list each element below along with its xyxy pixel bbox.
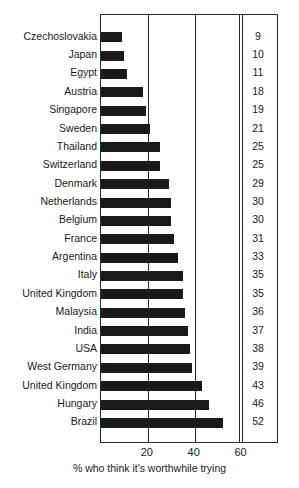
category-label: Hungary (57, 397, 97, 409)
value-label: 39 (238, 360, 278, 372)
bar (101, 289, 183, 299)
value-label: 10 (238, 48, 278, 60)
category-label: Singapore (49, 103, 97, 115)
category-label: Brazil (71, 415, 97, 427)
bar (101, 161, 160, 171)
category-label: Argentina (52, 250, 97, 262)
bar (101, 216, 171, 226)
value-label: 33 (238, 250, 278, 262)
bar (101, 418, 223, 428)
value-label: 18 (238, 85, 278, 97)
category-label: Thailand (57, 140, 97, 152)
x-axis-title: % who think it's worthwhile trying (0, 462, 299, 474)
value-label: 19 (238, 103, 278, 115)
bar (101, 32, 122, 42)
bar (101, 271, 183, 281)
value-label: 46 (238, 397, 278, 409)
value-label: 25 (238, 158, 278, 170)
category-label: Sweden (59, 122, 97, 134)
bar (101, 51, 124, 61)
category-label: Netherlands (40, 195, 97, 207)
x-tick-label: 20 (141, 446, 153, 458)
category-label: Czechoslovakia (23, 30, 97, 42)
value-label: 36 (238, 305, 278, 317)
category-label: France (64, 232, 97, 244)
category-label: United Kingdom (22, 287, 97, 299)
bar (101, 234, 174, 244)
bar (101, 381, 202, 391)
category-label: Belgium (59, 213, 97, 225)
bar (101, 198, 171, 208)
x-tick-label: 40 (188, 446, 200, 458)
value-label: 31 (238, 232, 278, 244)
x-axis-ticks: 204060 (100, 443, 278, 463)
category-label: Denmark (54, 177, 97, 189)
value-label: 35 (238, 268, 278, 280)
category-label: Egypt (70, 66, 97, 78)
value-label: 9 (238, 30, 278, 42)
value-label: 30 (238, 195, 278, 207)
bar (101, 344, 190, 354)
bar (101, 363, 192, 373)
value-label: 38 (238, 342, 278, 354)
bar (101, 87, 143, 97)
bar (101, 106, 146, 116)
bar (101, 124, 150, 134)
bar (101, 308, 185, 318)
category-label: India (74, 324, 97, 336)
bar (101, 400, 209, 410)
bar (101, 69, 127, 79)
value-label: 52 (238, 415, 278, 427)
value-label: 25 (238, 140, 278, 152)
category-label-column: CzechoslovakiaJapanEgyptAustriaSingapore… (0, 14, 100, 443)
category-label: United Kingdom (22, 379, 97, 391)
category-label: Japan (68, 48, 97, 60)
value-column: 9101118192125252930303133353536373839434… (238, 14, 278, 443)
category-label: Switzerland (43, 158, 97, 170)
value-label: 11 (238, 66, 278, 78)
category-label: Austria (64, 85, 97, 97)
x-tick-label: 60 (234, 446, 246, 458)
value-label: 35 (238, 287, 278, 299)
value-label: 37 (238, 324, 278, 336)
category-label: USA (75, 342, 97, 354)
category-label: Malaysia (56, 305, 97, 317)
value-label: 30 (238, 213, 278, 225)
bar (101, 253, 178, 263)
bar (101, 179, 169, 189)
value-label: 21 (238, 122, 278, 134)
chart-page: CzechoslovakiaJapanEgyptAustriaSingapore… (0, 0, 299, 488)
bar (101, 142, 160, 152)
category-label: West Germany (27, 360, 97, 372)
bar (101, 326, 188, 336)
value-label: 43 (238, 379, 278, 391)
value-label: 29 (238, 177, 278, 189)
category-label: Italy (78, 268, 97, 280)
